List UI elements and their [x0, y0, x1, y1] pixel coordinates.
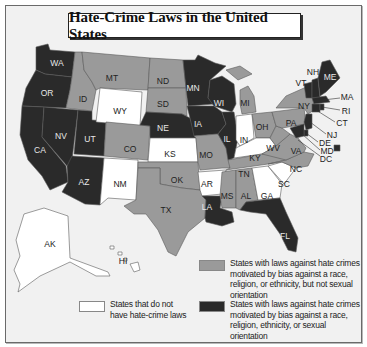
- label-MI: MI: [240, 98, 249, 108]
- state-DC: [334, 145, 340, 151]
- label-OK: OK: [171, 175, 184, 185]
- label-KY: KY: [249, 153, 261, 163]
- label-WY: WY: [113, 106, 127, 116]
- label-WV: WV: [266, 143, 280, 153]
- label-UT: UT: [84, 134, 95, 144]
- legend-swatch-dark: [199, 301, 225, 312]
- state-CT: [312, 104, 320, 112]
- label-KS: KS: [164, 149, 176, 159]
- label-NH: NH: [307, 67, 319, 77]
- leader-CT: [316, 110, 335, 122]
- label-MA: MA: [341, 92, 354, 102]
- label-MS: MS: [221, 191, 234, 201]
- label-HI: HI: [119, 256, 128, 266]
- state-AK: [14, 208, 110, 292]
- label-MO: MO: [199, 150, 213, 160]
- label-NC: NC: [290, 164, 302, 174]
- map-title: Hate-Crime Laws in the United States: [69, 9, 300, 43]
- label-ND: ND: [157, 76, 169, 86]
- label-WA: WA: [50, 58, 64, 68]
- legend-swatch-gray: [199, 260, 225, 271]
- label-IL: IL: [223, 134, 230, 144]
- legend-swatch-white: [79, 301, 105, 312]
- label-AR: AR: [201, 179, 213, 189]
- state-MS: [220, 170, 236, 208]
- label-PA: PA: [286, 118, 297, 128]
- label-VA: VA: [291, 146, 302, 156]
- label-MN: MN: [186, 83, 199, 93]
- label-AK: AK: [44, 239, 56, 249]
- label-OH: OH: [256, 122, 269, 132]
- legend-text-dark: States with laws against hate crimes mot…: [230, 299, 360, 341]
- label-RI: RI: [342, 106, 351, 116]
- label-GA: GA: [261, 191, 274, 201]
- label-NY: NY: [298, 101, 310, 111]
- leader-NJ: [310, 122, 326, 134]
- label-ME: ME: [324, 72, 337, 82]
- label-NM: NM: [113, 179, 126, 189]
- label-AL: AL: [241, 191, 252, 201]
- label-OR: OR: [41, 88, 54, 98]
- label-TX: TX: [161, 205, 172, 215]
- label-CA: CA: [34, 145, 46, 155]
- title-box: Hate-Crime Laws in the United States: [68, 13, 301, 38]
- label-IA: IA: [194, 119, 202, 129]
- leader-DE: [306, 133, 318, 142]
- state-FL: [240, 198, 298, 252]
- leader-RI: [322, 107, 340, 110]
- label-SC: SC: [278, 179, 290, 189]
- label-DC: DC: [320, 154, 332, 164]
- label-TN: TN: [238, 169, 249, 179]
- label-ID: ID: [79, 94, 88, 104]
- label-SD: SD: [157, 99, 169, 109]
- label-FL: FL: [280, 231, 290, 241]
- legend-text-gray: States with laws against hate crimes mot…: [230, 258, 360, 300]
- label-VT: VT: [296, 78, 307, 88]
- state-NJ: [304, 114, 312, 130]
- legend-text-white: States that do not have hate-crime laws: [110, 299, 188, 320]
- label-NV: NV: [55, 131, 67, 141]
- state-CO: [104, 122, 150, 160]
- label-WI: WI: [214, 98, 224, 108]
- label-IN: IN: [240, 135, 249, 145]
- label-MT: MT: [106, 73, 118, 83]
- label-CO: CO: [124, 144, 137, 154]
- state-MI-UP: [226, 66, 252, 80]
- label-LA: LA: [202, 202, 213, 212]
- label-AZ: AZ: [79, 177, 90, 187]
- label-NE: NE: [157, 123, 169, 133]
- label-CT: CT: [336, 118, 347, 128]
